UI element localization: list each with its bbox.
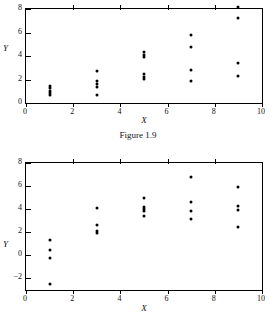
figure-page: Y 02468 0246810 X Figure 1.9 Y −202468 0… bbox=[0, 0, 276, 322]
data-point bbox=[190, 209, 193, 212]
data-point bbox=[143, 197, 146, 200]
data-point bbox=[95, 232, 98, 235]
data-point bbox=[190, 33, 193, 36]
data-point bbox=[190, 79, 193, 82]
data-point bbox=[143, 77, 146, 80]
y-axis-tick bbox=[26, 209, 31, 210]
data-point bbox=[95, 85, 98, 88]
x-axis-tick-label: 6 bbox=[165, 108, 169, 116]
y-axis-tick-label: 8 bbox=[18, 4, 22, 12]
x-axis-tick-label: 0 bbox=[23, 108, 27, 116]
data-point bbox=[95, 70, 98, 73]
x-axis-tick-label: 10 bbox=[257, 295, 265, 303]
y-axis-scale-bottom: −202468 bbox=[2, 162, 22, 291]
y-axis-tick bbox=[26, 278, 31, 279]
x-axis-tick-label: 4 bbox=[117, 295, 121, 303]
x-axis-title-bottom: X bbox=[25, 304, 263, 313]
x-axis-tick-label: 6 bbox=[165, 295, 169, 303]
x-axis-tick-label: 0 bbox=[23, 295, 27, 303]
y-axis-tick bbox=[26, 186, 31, 187]
data-point bbox=[237, 208, 240, 211]
y-axis-tick-label: 2 bbox=[18, 227, 22, 235]
data-point bbox=[95, 93, 98, 96]
data-point bbox=[95, 224, 98, 227]
data-point bbox=[237, 62, 240, 65]
y-axis-tick-label: 0 bbox=[18, 250, 22, 258]
data-point bbox=[237, 226, 240, 229]
data-point bbox=[143, 214, 146, 217]
y-axis-tick-label: −2 bbox=[13, 273, 22, 281]
y-axis-tick bbox=[26, 255, 31, 256]
data-point bbox=[237, 6, 240, 9]
plot-area-bottom bbox=[25, 162, 263, 291]
x-axis-tick bbox=[215, 5, 216, 10]
data-point bbox=[48, 283, 51, 286]
y-axis-tick bbox=[26, 232, 31, 233]
data-point bbox=[48, 248, 51, 251]
y-axis-tick-label: 4 bbox=[18, 204, 22, 212]
x-axis-tick-label: 8 bbox=[212, 108, 216, 116]
data-point bbox=[143, 209, 146, 212]
x-axis-tick-label: 4 bbox=[117, 108, 121, 116]
data-point bbox=[190, 200, 193, 203]
data-point bbox=[237, 186, 240, 189]
y-axis-tick-label: 2 bbox=[18, 75, 22, 83]
x-axis-tick-label: 8 bbox=[212, 295, 216, 303]
x-axis-tick-label: 10 bbox=[257, 108, 265, 116]
y-axis-tick bbox=[26, 33, 31, 34]
x-axis-tick-label: 2 bbox=[70, 295, 74, 303]
x-axis-scale-bottom: 0246810 bbox=[25, 293, 263, 303]
y-axis-scale-top: 02468 bbox=[2, 8, 22, 104]
y-axis-tick-label: 4 bbox=[18, 51, 22, 59]
x-axis-tick bbox=[168, 5, 169, 10]
y-axis-tick-label: 8 bbox=[18, 158, 22, 166]
x-axis-tick bbox=[215, 159, 216, 164]
data-point bbox=[190, 217, 193, 220]
y-axis-tick-label: 6 bbox=[18, 181, 22, 189]
y-axis-tick bbox=[26, 56, 31, 57]
x-axis-tick bbox=[120, 159, 121, 164]
y-axis-tick bbox=[26, 9, 31, 10]
y-axis-tick bbox=[26, 80, 31, 81]
data-point bbox=[48, 239, 51, 242]
scatter-chart-top: Y 02468 0246810 X bbox=[0, 0, 276, 128]
data-point bbox=[237, 74, 240, 77]
y-axis-tick bbox=[26, 163, 31, 164]
y-axis-tick-label: 6 bbox=[18, 28, 22, 36]
y-axis-tick-label: 0 bbox=[18, 98, 22, 106]
data-point bbox=[48, 257, 51, 260]
plot-area-top bbox=[25, 8, 263, 104]
data-point bbox=[95, 207, 98, 210]
scatter-chart-bottom: Y −202468 0246810 X bbox=[0, 158, 276, 322]
data-point bbox=[48, 93, 51, 96]
x-axis-tick bbox=[73, 159, 74, 164]
x-axis-title-top: X bbox=[25, 116, 263, 125]
data-point bbox=[190, 175, 193, 178]
x-axis-tick bbox=[120, 5, 121, 10]
figure-caption: Figure 1.9 bbox=[0, 130, 276, 141]
data-point bbox=[190, 68, 193, 71]
x-axis-tick bbox=[168, 159, 169, 164]
x-axis-tick bbox=[73, 5, 74, 10]
x-axis-tick-label: 2 bbox=[70, 108, 74, 116]
data-point bbox=[237, 17, 240, 20]
data-point bbox=[143, 55, 146, 58]
data-point bbox=[190, 46, 193, 49]
